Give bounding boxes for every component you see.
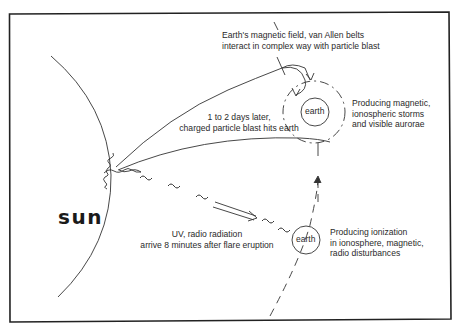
- particle-blast-line-1: 1 to 2 days later,: [172, 112, 306, 123]
- particle-blast-line-2: charged particle blast hits earth: [172, 123, 306, 134]
- radiation-wave-3: [196, 195, 208, 199]
- annotation-pointer: [277, 57, 285, 75]
- annotation-pointer-top: [274, 22, 278, 30]
- storms-line-3: and visible aurorae: [352, 119, 430, 130]
- frame-border: [10, 12, 452, 322]
- ionization-line-3: radio disturbances: [330, 248, 424, 259]
- sun-label: sun: [58, 205, 103, 229]
- radiation-wave-4: [262, 219, 274, 223]
- radiation-double-arrow: [213, 202, 257, 221]
- radiation-wave-5: [278, 228, 290, 232]
- storms-line-2: ionospheric storms: [352, 109, 430, 120]
- uv-radiation-line-2: arrive 8 minutes after flare eruption: [136, 240, 278, 251]
- earth-upper-label: earth: [305, 106, 324, 116]
- radiation-wave-2: [168, 184, 180, 188]
- particle-blast-annotation: 1 to 2 days later, charged particle blas…: [172, 112, 306, 133]
- magnetic-field-line-1: Earth's magnetic field, van Allen belts: [222, 30, 380, 41]
- earth-lower-label: earth: [296, 234, 315, 244]
- radiation-wave-1: [140, 176, 152, 180]
- uv-radiation-line-1: UV, radio radiation: [136, 229, 278, 240]
- magnetic-field-annotation: Earth's magnetic field, van Allen belts …: [222, 30, 380, 51]
- sun-limb-arc: [51, 56, 111, 297]
- storms-line-1: Producing magnetic,: [352, 98, 430, 109]
- orbit-direction-arrow: [314, 176, 321, 183]
- ionization-line-1: Producing ionization: [330, 227, 424, 238]
- particle-blast-lower-line: [118, 138, 330, 170]
- uv-radiation-annotation: UV, radio radiation arrive 8 minutes aft…: [136, 229, 278, 250]
- magnetic-field-line-2: interact in complex way with particle bl…: [222, 41, 380, 52]
- ionization-annotation: Producing ionization in ionosphere, magn…: [330, 227, 424, 259]
- ionization-line-2: in ionosphere, magnetic,: [330, 238, 424, 249]
- storms-annotation: Producing magnetic, ionospheric storms a…: [352, 98, 430, 130]
